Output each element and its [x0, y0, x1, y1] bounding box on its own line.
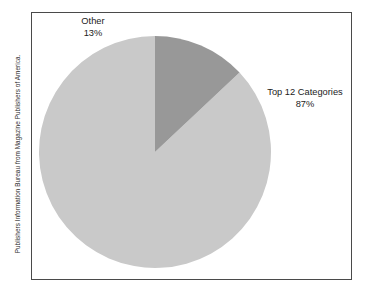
pie-label-top-12-categories-name: Top 12 Categories	[259, 87, 351, 99]
pie-label-top-12-categories: Top 12 Categories 87%	[259, 87, 351, 110]
pie-label-top-12-categories-value: 87%	[259, 99, 351, 111]
source-credit-label: Publishers Information Bureau from Magaz…	[14, 54, 22, 254]
pie-label-other-name: Other	[60, 16, 126, 28]
pie-chart	[31, 12, 352, 280]
pie-label-other: Other 13%	[60, 16, 126, 39]
pie-label-other-value: 13%	[60, 28, 126, 40]
pie-chart-figure: Publishers Information Bureau from Magaz…	[0, 0, 367, 294]
